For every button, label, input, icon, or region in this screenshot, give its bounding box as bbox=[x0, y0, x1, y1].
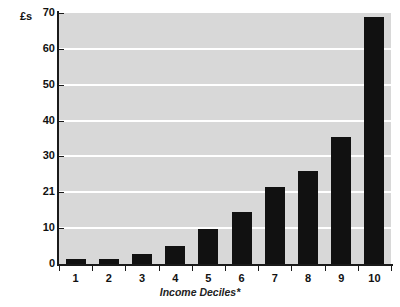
x-tick-label: 6 bbox=[225, 272, 258, 284]
y-tick-label: 70 bbox=[15, 6, 55, 18]
x-tick-label: 10 bbox=[358, 272, 391, 284]
bar-layer bbox=[59, 13, 391, 264]
bar bbox=[331, 137, 351, 264]
y-tick-label: 30 bbox=[15, 149, 55, 161]
bar bbox=[198, 229, 218, 264]
plot-area bbox=[59, 13, 391, 264]
x-tick-label: 1 bbox=[59, 272, 92, 284]
x-tick-label: 9 bbox=[325, 272, 358, 284]
bar bbox=[165, 246, 185, 264]
x-tick-mark bbox=[325, 265, 326, 271]
x-tick-label: 7 bbox=[258, 272, 291, 284]
bar bbox=[298, 171, 318, 264]
cut-off-caption bbox=[0, 299, 400, 307]
x-tick-label: 4 bbox=[159, 272, 192, 284]
x-tick-label: 5 bbox=[192, 272, 225, 284]
x-tick-mark bbox=[192, 265, 193, 271]
y-tick-label: 0 bbox=[15, 257, 55, 269]
x-tick-label: 2 bbox=[92, 272, 125, 284]
bar bbox=[132, 254, 152, 264]
x-tick-mark bbox=[225, 265, 226, 271]
x-tick-mark bbox=[59, 265, 60, 271]
x-tick-mark bbox=[391, 265, 392, 271]
bar bbox=[364, 17, 384, 264]
y-tick-mark bbox=[59, 85, 64, 86]
x-tick-mark bbox=[92, 265, 93, 271]
y-tick-mark bbox=[59, 13, 64, 14]
y-tick-label: 10 bbox=[15, 221, 55, 233]
y-tick-label: 50 bbox=[15, 78, 55, 90]
y-tick-mark bbox=[59, 228, 64, 229]
y-tick-label: 60 bbox=[15, 42, 55, 54]
bar bbox=[232, 212, 252, 264]
y-tick-mark bbox=[59, 121, 64, 122]
x-tick-mark bbox=[159, 265, 160, 271]
x-tick-label: 8 bbox=[291, 272, 324, 284]
bar bbox=[265, 187, 285, 264]
y-tick-label: 21 bbox=[15, 185, 55, 197]
x-tick-mark bbox=[358, 265, 359, 271]
x-axis-title: Income Deciles* bbox=[0, 286, 400, 298]
x-tick-mark bbox=[258, 265, 259, 271]
y-tick-mark bbox=[59, 49, 64, 50]
x-tick-mark bbox=[291, 265, 292, 271]
y-tick-mark bbox=[59, 156, 64, 157]
y-tick-label: 40 bbox=[15, 114, 55, 126]
x-tick-mark bbox=[125, 265, 126, 271]
bar-chart: £s 706050403021100 12345678910 Income De… bbox=[0, 0, 400, 307]
x-tick-label: 3 bbox=[125, 272, 158, 284]
y-tick-mark bbox=[59, 192, 64, 193]
